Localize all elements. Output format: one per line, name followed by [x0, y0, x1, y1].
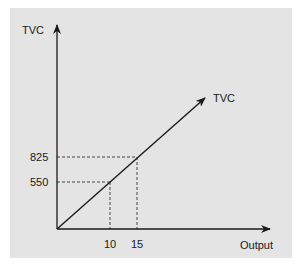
x-tick-10: 10: [104, 238, 116, 250]
tvc-line: [57, 98, 205, 229]
x-axis-label: Output: [240, 239, 273, 251]
curve-label-tvc: TVC: [213, 92, 235, 104]
tvc-chart: TVC Output TVC 825 550 10 15: [0, 0, 302, 267]
y-axis-label: TVC: [22, 24, 44, 36]
y-tick-550: 550: [30, 176, 48, 188]
x-tick-15: 15: [131, 238, 143, 250]
y-tick-825: 825: [30, 151, 48, 163]
